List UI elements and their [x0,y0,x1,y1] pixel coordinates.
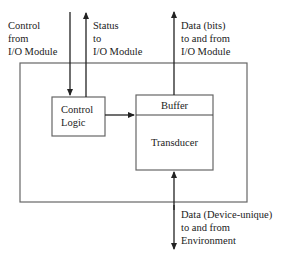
data-bits-label: Data (bits) to and from I/O Module [181,19,230,58]
buffer-label: Buffer [136,99,213,112]
control-in-label: Control from I/O Module [8,19,57,58]
data-env-label: Data (Device-unique) to and from Environ… [181,208,272,247]
status-out-label: Status to I/O Module [93,19,142,58]
control-logic-label: Control Logic [52,103,105,129]
transducer-label: Transducer [136,136,213,149]
